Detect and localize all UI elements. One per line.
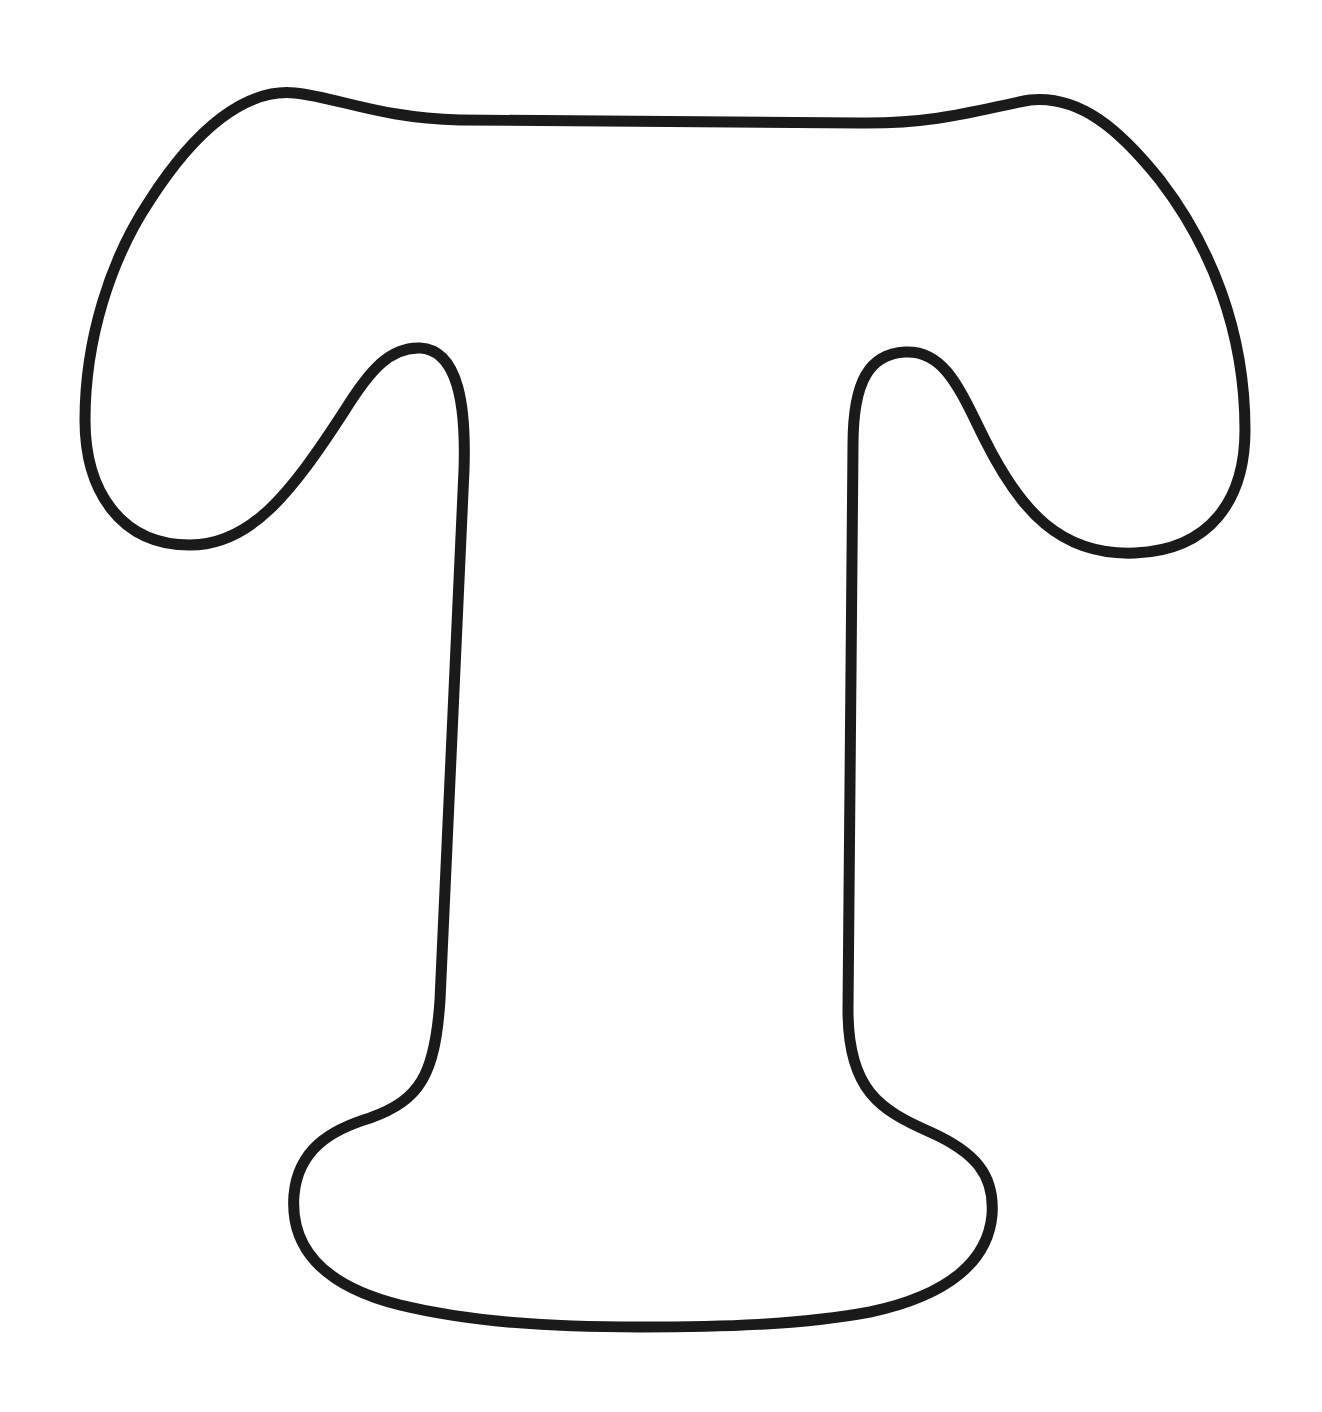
letter-t-outline [85,93,1245,1327]
coloring-page [0,0,1322,1412]
letter-t-drawing [0,0,1322,1412]
